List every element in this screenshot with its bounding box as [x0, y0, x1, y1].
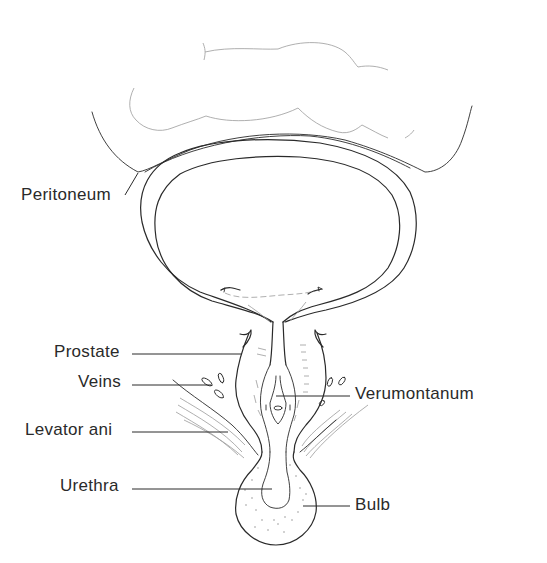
bowel-loops [130, 43, 414, 138]
label-urethra: Urethra [60, 477, 119, 494]
prostate [236, 322, 326, 452]
label-veins: Veins [78, 373, 121, 390]
vein-left-1 [201, 377, 214, 388]
leader-lines [125, 173, 350, 506]
label-verumontanum: Verumontanum [355, 385, 474, 402]
vein-left-3 [213, 389, 225, 400]
vein-left-2 [217, 373, 225, 384]
vein-right-1 [326, 377, 333, 387]
label-peritoneum: Peritoneum [21, 186, 111, 203]
leader-peritoneum [125, 173, 138, 195]
bladder [141, 140, 417, 322]
bulb-stipple [244, 464, 307, 533]
label-levator-ani: Levator ani [25, 421, 112, 438]
peritoneum-outline [92, 106, 472, 172]
label-prostate: Prostate [54, 343, 120, 360]
vein-right-2 [338, 376, 347, 386]
levator-ani [173, 380, 368, 458]
urethral-bulb [236, 452, 317, 545]
label-bulb: Bulb [355, 496, 390, 513]
